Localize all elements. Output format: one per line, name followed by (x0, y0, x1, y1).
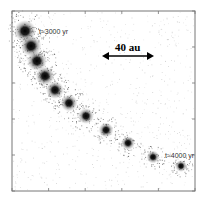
scale-bar-label: 40 au (115, 41, 140, 53)
scale-arrow-right-icon (147, 52, 154, 60)
blob-9 (121, 136, 135, 150)
plot-frame (12, 11, 195, 191)
blob-6 (61, 95, 78, 112)
scale-arrow-left-icon (102, 52, 109, 60)
end-time-label: t≈4000 yr (165, 152, 195, 160)
scale-bar: 40 au (102, 41, 154, 60)
blob-8 (99, 123, 114, 138)
blob-10 (147, 151, 160, 164)
blob-7 (78, 108, 94, 124)
blob-11 (175, 160, 187, 172)
figure-panel: t≈3000 yr t≈4000 yr 40 au (0, 0, 204, 203)
frame-ticks (12, 11, 195, 191)
blob-5 (46, 81, 64, 99)
start-time-label: t≈3000 yr (39, 28, 69, 36)
